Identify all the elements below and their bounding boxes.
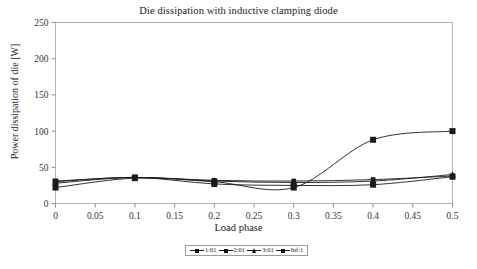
- y-tick-label: 200: [34, 54, 49, 64]
- legend-label: 2:01: [234, 247, 246, 254]
- data-point-square-icon: [211, 179, 217, 185]
- legend-item-1[interactable]: 1:01: [189, 247, 218, 254]
- y-tick-label: 250: [34, 18, 49, 28]
- x-tick-label: 0: [53, 211, 58, 221]
- legend-item-4[interactable]: Inf:1: [275, 247, 305, 254]
- legend-marker-square-icon: [219, 247, 233, 254]
- x-tick-label: 0.5: [447, 211, 459, 221]
- x-tick-label: 0.1: [129, 211, 141, 221]
- legend-label: 1:01: [205, 247, 217, 254]
- legend-item-3[interactable]: 3:01: [246, 247, 275, 254]
- data-point-square-icon: [450, 128, 456, 134]
- x-tick-label: 0.15: [166, 211, 183, 221]
- legend-marker-square-icon: [190, 247, 204, 254]
- legend-label: 3:01: [262, 247, 274, 254]
- data-point-square-icon: [132, 175, 138, 181]
- chart-legend: 1:01 2:01 3:01 Inf:1: [185, 245, 308, 256]
- legend-marker-square-icon: [276, 247, 290, 254]
- y-tick-label: 150: [34, 90, 49, 100]
- legend-label: Inf:1: [291, 247, 304, 254]
- chart-figure: Die dissipation with inductive clamping …: [0, 0, 477, 269]
- legend-item-2[interactable]: 2:01: [218, 247, 247, 254]
- x-tick-label: 0.35: [325, 211, 342, 221]
- data-point-square-icon: [291, 185, 297, 191]
- x-tick-label: 0.2: [208, 211, 220, 221]
- x-axis-label: Load phase: [0, 222, 477, 233]
- data-point-square-icon: [53, 185, 59, 191]
- data-point-square-icon: [370, 137, 376, 143]
- x-tick-label: 0.4: [367, 211, 379, 221]
- y-tick-label: 50: [39, 163, 49, 173]
- plot-frame: [56, 23, 453, 204]
- y-tick-label: 100: [34, 127, 49, 137]
- x-tick-label: 0.25: [246, 211, 263, 221]
- legend-marker-triangle-icon: [247, 247, 261, 254]
- y-tick-label: 0: [44, 199, 49, 209]
- x-tick-label: 0.05: [87, 211, 104, 221]
- x-tick-label: 0.45: [404, 211, 421, 221]
- x-tick-label: 0.3: [288, 211, 300, 221]
